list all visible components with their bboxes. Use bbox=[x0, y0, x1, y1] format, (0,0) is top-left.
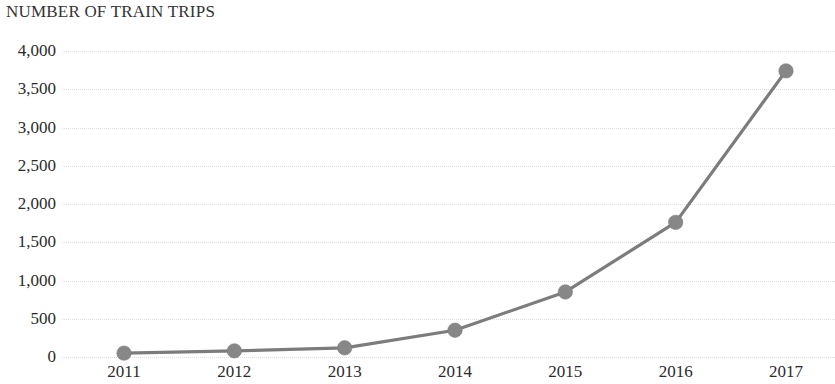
x-tick-label: 2015 bbox=[548, 362, 582, 382]
data-point-marker[interactable] bbox=[779, 64, 793, 78]
x-tick-label: 2017 bbox=[769, 362, 803, 382]
x-tick-label: 2013 bbox=[328, 362, 362, 382]
x-tick-label: 2011 bbox=[107, 362, 140, 382]
data-point-marker[interactable] bbox=[558, 285, 572, 299]
series-layer bbox=[0, 0, 835, 384]
x-tick-label: 2012 bbox=[217, 362, 251, 382]
data-point-marker[interactable] bbox=[117, 346, 131, 360]
x-tick-label: 2014 bbox=[438, 362, 472, 382]
line-chart: NUMBER OF TRAIN TRIPS 05001,0001,5002,00… bbox=[0, 0, 835, 384]
data-point-marker[interactable] bbox=[227, 344, 241, 358]
data-point-marker[interactable] bbox=[668, 215, 682, 229]
data-point-marker[interactable] bbox=[448, 323, 462, 337]
x-axis: 2011201220132014201520162017 bbox=[0, 362, 835, 384]
series-line bbox=[124, 71, 786, 353]
x-tick-label: 2016 bbox=[659, 362, 693, 382]
data-point-marker[interactable] bbox=[337, 341, 351, 355]
